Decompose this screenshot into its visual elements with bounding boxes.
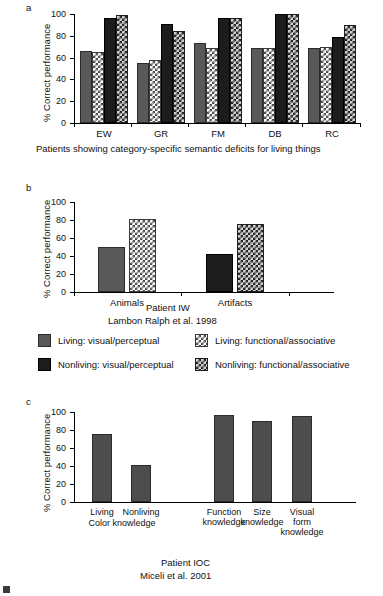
panel-a-ytick-label-0: 0	[36, 119, 66, 128]
bar-a-RC-living-functional	[320, 47, 332, 123]
bar-a-FM-living-functional	[206, 48, 218, 123]
panel-a-xtick-4	[302, 123, 303, 127]
panel-a-category-RC: RC	[325, 128, 339, 139]
panel-a: a % Correct performance 100 80 60 40 20 …	[0, 0, 383, 160]
panel-b-x-axis	[74, 292, 334, 293]
panel-b-ytick-80	[70, 220, 74, 221]
panel-c-caption-patient: Patient IOC	[161, 557, 210, 568]
panel-a-letter: a	[26, 2, 31, 13]
panel-c-category-visual-form-line1: Visualformknowledge	[276, 507, 328, 537]
panel-b-caption-patient: Patient IW	[146, 302, 190, 313]
panel-b-ytick-100	[70, 202, 74, 203]
panel-a-ytick-100	[70, 14, 74, 15]
bar-a-RC-living-visual	[308, 48, 320, 123]
panel-c-plot-area: 100 80 60 40 20 0 Living Nonliving Color…	[74, 412, 355, 502]
panel-c-x-axis	[74, 502, 356, 503]
bar-b-animals-living-visual	[98, 247, 125, 292]
panel-c-ytick-100	[70, 412, 74, 413]
panel-a-category-DB: DB	[268, 128, 281, 139]
panel-a-ytick-80	[70, 36, 74, 37]
panel-b-xtick-0	[74, 292, 75, 296]
panel-b-ytick-label-100: 100	[36, 198, 66, 207]
bar-b-artifacts-nonliving-visual	[206, 254, 233, 292]
panel-b-ytick-label-0: 0	[36, 288, 66, 297]
panel-b-category-artifacts: Artifacts	[218, 297, 252, 308]
panel-b-xtick-1	[181, 292, 182, 296]
panel-c-ytick-60	[70, 448, 74, 449]
figure-legend: Living: visual/perceptual Living: functi…	[38, 334, 368, 382]
panel-c-ytick-label-60: 60	[36, 444, 66, 453]
bar-a-DB-living-functional	[263, 48, 275, 123]
panel-b-category-animals: Animals	[110, 297, 144, 308]
legend-item-living-functional-associative: Living: functional/associative	[195, 334, 335, 347]
panel-a-xtick-3	[245, 123, 246, 127]
bar-a-EW-nonliving-visual	[104, 18, 116, 123]
panel-b-ytick-20	[70, 274, 74, 275]
bar-a-RC-nonliving-functional	[344, 25, 356, 123]
panel-a-xtick-5	[360, 123, 361, 127]
panel-c-ytick-0	[70, 502, 74, 503]
corner-crop-mark	[3, 586, 10, 593]
legend-item-nonliving-functional-associative: Nonliving: functional/associative	[195, 358, 350, 371]
panel-c-group-label-color-knowledge: Color knowledge	[67, 518, 177, 528]
panel-c-letter: c	[26, 396, 31, 407]
panel-a-ytick-20	[70, 101, 74, 102]
bar-a-RC-nonliving-visual	[332, 37, 344, 123]
panel-b-ytick-60	[70, 238, 74, 239]
bar-c-size	[252, 421, 272, 502]
panel-b-y-axis-label: % Correct performance	[41, 200, 52, 298]
bar-c-nonliving	[131, 465, 151, 502]
bar-a-FM-nonliving-visual	[218, 18, 230, 123]
panel-a-ytick-label-40: 40	[36, 75, 66, 84]
panel-a-category-FM: FM	[211, 128, 225, 139]
panel-b: b % Correct performance 100 80 60 40 20 …	[0, 160, 383, 334]
panel-b-ytick-40	[70, 256, 74, 257]
panel-c-ytick-label-0: 0	[36, 498, 66, 507]
panel-c-caption-reference: Miceli et al. 2001	[140, 570, 211, 581]
panel-c-ytick-80	[70, 430, 74, 431]
panel-c-ytick-label-80: 80	[36, 426, 66, 435]
bar-b-animals-living-functional	[129, 219, 156, 292]
panel-c: c % Correct performance 100 80 60 40 20 …	[0, 392, 383, 596]
bar-a-EW-nonliving-functional	[116, 15, 128, 123]
panel-c-y-axis	[74, 412, 75, 503]
panel-a-ytick-label-80: 80	[36, 32, 66, 41]
panel-b-ytick-label-60: 60	[36, 234, 66, 243]
panel-b-caption-reference: Lambon Ralph et al. 1998	[108, 315, 217, 326]
panel-b-letter: b	[26, 182, 31, 193]
panel-a-ytick-label-60: 60	[36, 54, 66, 63]
panel-a-ytick-label-20: 20	[36, 97, 66, 106]
panel-a-ytick-40	[70, 79, 74, 80]
bar-a-DB-nonliving-functional	[287, 14, 299, 123]
bar-a-GR-living-visual	[137, 63, 149, 123]
living-functional-associative-swatch-icon	[195, 334, 208, 347]
bar-a-FM-nonliving-functional	[230, 18, 242, 123]
panel-a-x-axis	[74, 123, 361, 124]
panel-b-ytick-label-20: 20	[36, 270, 66, 279]
bar-c-visual-form	[292, 416, 312, 502]
panel-c-category-nonliving: Nonliving	[112, 507, 170, 517]
legend-item-living-visual-perceptual: Living: visual/perceptual	[38, 334, 159, 347]
legend-label-living-functional-associative: Living: functional/associative	[215, 335, 335, 346]
panel-a-xtick-0	[74, 123, 75, 127]
panel-c-ytick-label-20: 20	[36, 480, 66, 489]
panel-b-y-axis	[74, 202, 75, 293]
panel-a-xtick-1	[131, 123, 132, 127]
panel-a-ytick-label-100: 100	[36, 10, 66, 19]
panel-b-ytick-label-80: 80	[36, 216, 66, 225]
bar-a-DB-living-visual	[251, 48, 263, 123]
bar-a-EW-living-functional	[92, 52, 104, 123]
panel-c-ytick-label-40: 40	[36, 462, 66, 471]
bar-a-GR-living-functional	[149, 60, 161, 123]
nonliving-functional-associative-swatch-icon	[195, 358, 208, 371]
panel-c-ytick-label-100: 100	[36, 408, 66, 417]
panel-a-category-GR: GR	[154, 128, 168, 139]
panel-a-category-EW: EW	[96, 128, 111, 139]
panel-c-ytick-40	[70, 466, 74, 467]
panel-b-xtick-2	[289, 292, 290, 296]
bar-c-living	[92, 434, 112, 502]
panel-a-ytick-60	[70, 58, 74, 59]
panel-a-caption: Patients showing category-specific seman…	[36, 143, 321, 154]
living-visual-perceptual-swatch-icon	[38, 334, 51, 347]
legend-label-nonliving-functional-associative: Nonliving: functional/associative	[215, 359, 350, 370]
